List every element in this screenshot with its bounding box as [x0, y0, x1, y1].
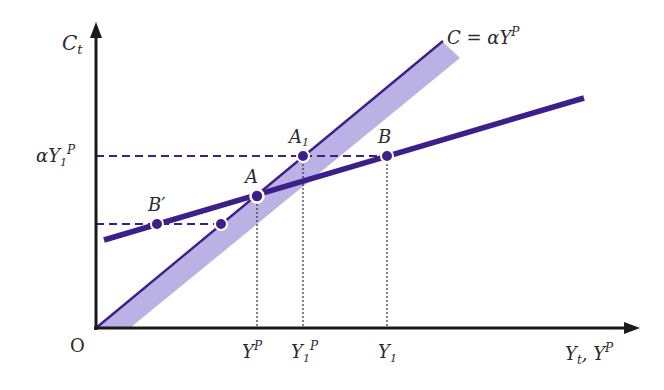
label-bprime: B′ — [147, 194, 165, 215]
label-a: A — [243, 166, 258, 187]
y-tick-alpha-y1p: αY1P — [36, 143, 76, 169]
long-run-consumption-line — [96, 41, 443, 328]
long-run-label: C = αYP — [447, 25, 520, 48]
short-run-consumption-line — [104, 98, 584, 240]
long-run-band — [96, 42, 460, 328]
label-a1: A1 — [287, 126, 309, 149]
x-tick-yp: YP — [242, 339, 263, 362]
y-axis-label: Ct — [62, 31, 83, 57]
point-c-at-y1p-short — [215, 218, 227, 230]
x-axis-arrow-icon — [624, 322, 640, 334]
origin-label: O — [70, 335, 85, 356]
point-b — [381, 150, 393, 162]
point-a — [251, 190, 264, 203]
consumption-diagram: Ct O Yt, YP C = αYP αY1P YP Y1P Y1 A A1 … — [0, 0, 664, 390]
x-tick-y1: Y1 — [378, 341, 397, 365]
y-axis-arrow-icon — [90, 22, 102, 38]
label-b: B — [377, 126, 391, 147]
x-axis-label: Yt, YP — [565, 341, 614, 367]
point-bprime — [151, 218, 163, 230]
point-a1 — [297, 150, 309, 162]
x-tick-y1p: Y1P — [291, 339, 319, 365]
